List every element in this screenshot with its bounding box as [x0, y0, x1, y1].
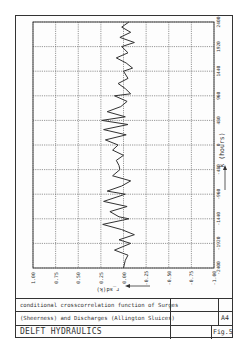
r-tick-label: 0.00: [122, 272, 127, 284]
title-block-divider: [16, 311, 232, 312]
k-tick-label: -1920: [216, 236, 221, 250]
k-tick-label: 1440: [216, 65, 221, 76]
title-block-vdivider: [218, 299, 219, 325]
r-axis-label: r_sd(k): [96, 286, 119, 293]
svg-text:k (hours): k (hours): [218, 132, 226, 167]
title-line-1: conditional crosscorrelation function of…: [20, 302, 178, 308]
r-tick-label: -0.50: [167, 271, 172, 286]
k-tick-label: 960: [216, 91, 221, 99]
title-block-vdivider: [211, 325, 212, 339]
r-tick-label: -1.00: [212, 271, 217, 286]
chart-plot: 2400192014409604800-480-960-1440-1920-24…: [0, 0, 249, 300]
k-tick-label: -1440: [216, 212, 221, 226]
r-tick-label: 0.50: [76, 272, 81, 284]
title-block-divider: [16, 325, 232, 326]
k-axis-label: k (hours): [218, 132, 226, 167]
r-tick-label: 0.25: [99, 272, 104, 284]
grid-lines: [33, 22, 214, 268]
figure-number: Fig.5: [213, 328, 233, 336]
r-tick-label: -0.75: [189, 271, 194, 286]
r-axis-ticks: 1.000.750.500.250.00-0.25-0.50-0.75-1.00: [31, 271, 217, 286]
title-block: conditional crosscorrelation function of…: [15, 298, 233, 338]
r-tick-label: 1.00: [31, 272, 36, 284]
k-tick-label: 2400: [216, 16, 221, 27]
title-line-2: (Sheerness) and Discharges (Allington Sl…: [20, 315, 175, 321]
k-tick-label: 1920: [216, 41, 221, 52]
sheet-size: A4: [221, 314, 229, 322]
k-tick-label: 480: [216, 116, 221, 124]
r-tick-label: -0.25: [144, 271, 149, 286]
r-tick-label: 0.75: [54, 272, 59, 284]
organisation-name: DELFT HYDRAULICS: [20, 327, 102, 336]
k-tick-label: -960: [216, 188, 221, 199]
svg-text:r_sd(k): r_sd(k): [96, 286, 119, 293]
